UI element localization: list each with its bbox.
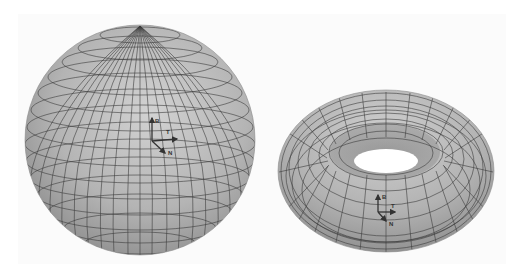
torus-label-b: B (382, 194, 387, 200)
torus-hole (354, 149, 418, 173)
sphere: B T N (25, 25, 255, 255)
torus-label-t: T (391, 203, 395, 209)
torus: B T N (278, 90, 494, 252)
torus-label-n: N (389, 221, 393, 227)
sphere-label-t: T (166, 129, 170, 135)
diagram-canvas: B T N (0, 0, 525, 274)
sphere-label-b: B (155, 118, 160, 124)
sphere-label-n: N (168, 150, 172, 156)
